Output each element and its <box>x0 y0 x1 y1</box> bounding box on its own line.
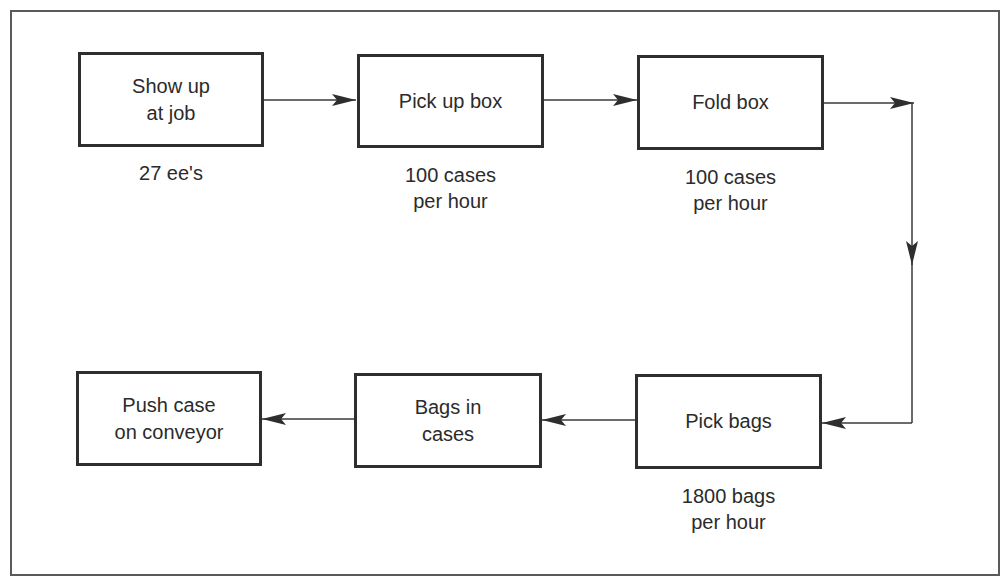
step-label: Push case on conveyor <box>115 392 224 446</box>
step-label: Pick up box <box>399 88 502 115</box>
step-label: Show up at job <box>132 73 210 127</box>
step-label: Pick bags <box>685 408 772 435</box>
step-pick-up-box: Pick up box <box>357 54 544 148</box>
step-push-case-on-conveyor: Push case on conveyor <box>76 371 262 466</box>
step-note-pick-bags: 1800 bags per hour <box>635 483 822 535</box>
step-fold-box: Fold box <box>637 55 824 150</box>
step-pick-bags: Pick bags <box>635 374 822 469</box>
step-bags-in-cases: Bags in cases <box>354 373 542 468</box>
step-note-fold-box: 100 cases per hour <box>637 164 824 216</box>
step-label: Bags in cases <box>415 394 482 448</box>
step-note-pick-up-box: 100 cases per hour <box>357 162 544 214</box>
step-show-up-at-job: Show up at job <box>78 52 264 147</box>
step-label: Fold box <box>692 89 769 116</box>
step-note-show-up: 27 ee's <box>78 160 264 186</box>
